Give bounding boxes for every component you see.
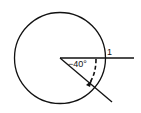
- unit-circle-diagram: 1 −40°: [0, 0, 141, 113]
- angle-arc-dashed: [89, 59, 96, 84]
- angle-label: −40°: [68, 59, 87, 69]
- radius-label: 1: [107, 47, 112, 57]
